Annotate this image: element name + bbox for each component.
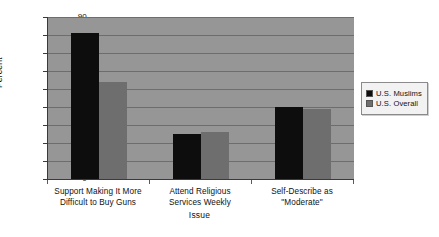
bar-group: [173, 17, 229, 179]
bar[interactable]: [71, 33, 99, 179]
bar[interactable]: [99, 82, 127, 179]
x-category-label-line: "Moderate": [241, 197, 363, 208]
x-tick-mark: [47, 180, 48, 184]
legend-swatch-icon: [366, 90, 373, 97]
x-category-label: Self-Describe as"Moderate": [241, 186, 363, 208]
legend-item-label: U.S. Muslims: [376, 89, 422, 98]
legend-item[interactable]: U.S. Muslims: [366, 89, 422, 98]
x-tick-mark: [149, 180, 150, 184]
bar[interactable]: [275, 107, 303, 179]
bar-chart: Percent 9080706050403020100 Support Maki…: [0, 0, 439, 237]
bar[interactable]: [173, 134, 201, 179]
bars-layer: [48, 17, 354, 179]
bar-group: [71, 17, 127, 179]
x-tick-mark: [251, 180, 252, 184]
x-category-label-line: Self-Describe as: [241, 186, 363, 197]
x-axis-title: Issue: [0, 210, 439, 220]
bar-group: [275, 17, 331, 179]
legend-swatch-icon: [366, 100, 373, 107]
legend-item[interactable]: U.S. Overall: [366, 99, 422, 108]
x-tick-mark: [353, 180, 354, 184]
chart-legend: U.S. Muslims U.S. Overall: [361, 82, 428, 115]
x-axis-title-text: Issue: [189, 210, 210, 220]
plot-area: [47, 17, 354, 180]
bar[interactable]: [303, 109, 331, 179]
legend-item-label: U.S. Overall: [376, 99, 418, 108]
y-axis-title: Percent: [0, 57, 4, 88]
bar[interactable]: [201, 132, 229, 179]
